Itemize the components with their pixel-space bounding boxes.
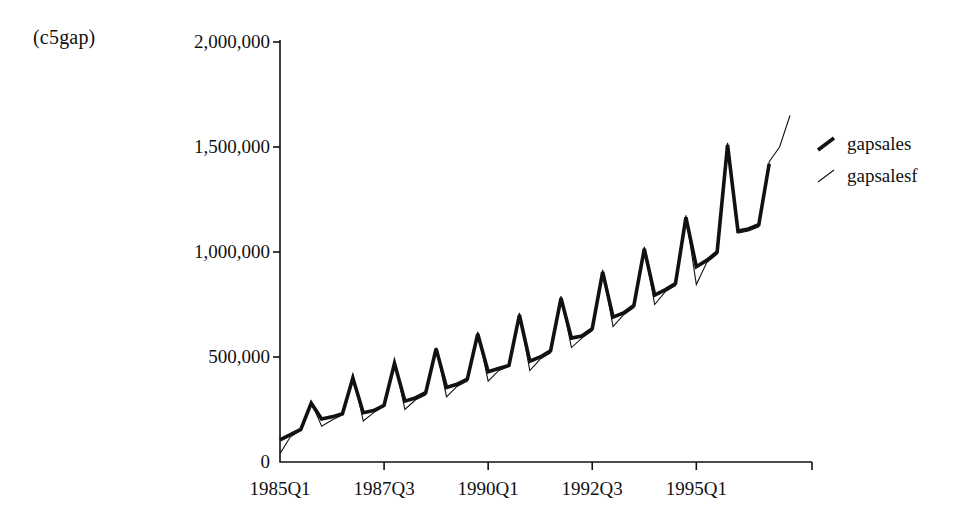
legend-item-label: gapsales	[839, 133, 911, 155]
legend-item[interactable]: gapsales	[815, 128, 964, 160]
legend-item-label: gapsalesf	[839, 165, 918, 187]
x-axis-tick-label: 1985Q1	[249, 478, 310, 500]
y-axis-tick-label: 0	[120, 451, 270, 473]
x-axis-tick-label: 1990Q1	[458, 478, 519, 500]
legend-item[interactable]: gapsalesf	[815, 160, 964, 192]
thick-diagonal-line-icon	[815, 134, 839, 154]
chart-figure: (c5gap) 0500,0001,000,0001,500,0002,000,…	[0, 0, 964, 521]
x-axis-tick-label: 1995Q1	[666, 478, 727, 500]
thin-diagonal-line-icon	[815, 166, 839, 186]
x-axis-tick-label: 1992Q3	[562, 478, 623, 500]
y-axis-tick-label: 1,500,000	[120, 136, 270, 158]
chart-legend: gapsalesgapsalesf	[815, 128, 964, 192]
y-axis-tick-label: 2,000,000	[120, 31, 270, 53]
y-axis-tick-label: 1,000,000	[120, 241, 270, 263]
y-axis-tick-label: 500,000	[120, 346, 270, 368]
x-axis-tick-label: 1987Q3	[353, 478, 414, 500]
